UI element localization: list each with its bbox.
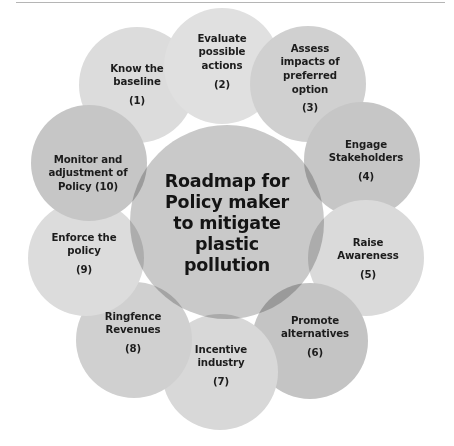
diagram-canvas: Know the baseline (1) Evaluate possible … [0, 0, 454, 446]
roadmap-venn-diagram [0, 0, 454, 446]
circle-monitor-and-adjustment[interactable] [31, 105, 147, 221]
